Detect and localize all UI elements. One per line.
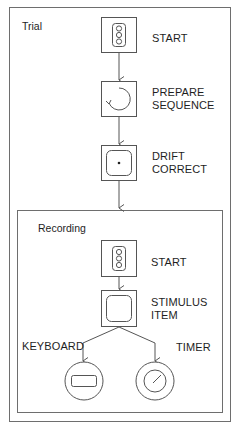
recording-start-label: START xyxy=(151,256,187,269)
traffic-light-icon xyxy=(101,17,137,53)
trial-start-label: START xyxy=(152,32,188,45)
stimulus-item-node[interactable] xyxy=(101,290,137,327)
prepare-sequence-label: PREPARE SEQUENCE xyxy=(152,86,215,112)
recording-start-node[interactable] xyxy=(101,240,137,277)
trial-start-node[interactable] xyxy=(101,17,137,53)
timer-trigger[interactable] xyxy=(135,361,175,401)
drift-correct-label: DRIFT CORRECT xyxy=(152,150,207,176)
keyboard-label: KEYBOARD xyxy=(22,340,84,353)
display-screen-icon xyxy=(101,290,137,327)
timer-dial-icon xyxy=(135,361,175,401)
keyboard-trigger[interactable] xyxy=(64,361,104,401)
traffic-light-icon xyxy=(101,240,137,277)
connector-lines xyxy=(0,0,239,430)
fixation-dot-icon xyxy=(101,145,137,181)
timer-label: TIMER xyxy=(176,341,211,354)
stimulus-item-label: STIMULUS ITEM xyxy=(151,296,207,322)
keyboard-key-icon xyxy=(64,361,104,401)
drift-correct-node[interactable] xyxy=(101,145,137,181)
circular-arrow-icon xyxy=(101,81,137,117)
prepare-sequence-node[interactable] xyxy=(101,81,137,117)
